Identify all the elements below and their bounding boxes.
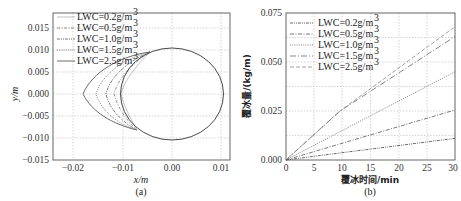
ytick-label: 0.075 bbox=[261, 8, 283, 18]
ytick-label: 0.000 bbox=[261, 155, 283, 165]
panel-b: 0.075 0.050 0.025 0.000 0 5 10 15 20 25 … bbox=[241, 8, 458, 198]
xtick-label: 15 bbox=[366, 163, 376, 173]
xtick-label: −0.02 bbox=[62, 163, 84, 173]
legend-item: LWC=0.2g/m 3 bbox=[57, 6, 138, 22]
legend-sup: 3 bbox=[133, 39, 138, 50]
legend-sup: 3 bbox=[133, 17, 138, 28]
xtick-label: 30 bbox=[448, 163, 458, 173]
xtick-label: 20 bbox=[394, 163, 404, 173]
legend-label: LWC=0.5g/m bbox=[318, 28, 373, 39]
panel-a-legend: LWC=0.2g/m 3 LWC=0.5g/m 3 LWC=1.0g/m 3 L… bbox=[57, 6, 138, 66]
legend-sup: 3 bbox=[133, 50, 138, 61]
panel-b-caption: (b) bbox=[364, 186, 376, 198]
legend-label: LWC=1.0g/m bbox=[77, 33, 132, 44]
panel-b-xticks: 0 5 10 15 20 25 30 bbox=[284, 163, 458, 173]
legend-sup: 3 bbox=[374, 34, 379, 45]
ytick-label: −0.010 bbox=[22, 133, 49, 143]
ytick-label: −0.015 bbox=[22, 155, 49, 165]
figure: 0.015 0.010 0.005 0.000 −0.005 −0.010 −0… bbox=[0, 0, 461, 201]
ytick-label: 0.025 bbox=[261, 106, 283, 116]
xtick-label: 5 bbox=[312, 163, 317, 173]
ytick-label: −0.005 bbox=[22, 111, 49, 121]
legend-sup: 3 bbox=[133, 6, 138, 17]
legend-label: LWC=2.5g/m bbox=[318, 61, 373, 72]
legend-label: LWC=0.2g/m bbox=[77, 11, 132, 22]
ytick-label: 0.015 bbox=[28, 23, 50, 33]
panel-a-ylabel: y/m bbox=[9, 87, 20, 102]
legend-sup: 3 bbox=[374, 56, 379, 67]
xtick-label: 25 bbox=[422, 163, 432, 173]
ytick-label: 0.005 bbox=[28, 67, 50, 77]
legend-item: LWC=0.2g/m 3 bbox=[290, 12, 379, 28]
panel-a-caption: (a) bbox=[135, 186, 146, 198]
legend-sup: 3 bbox=[133, 28, 138, 39]
xtick-label: 0.00 bbox=[164, 163, 181, 173]
ytick-label: 0.000 bbox=[28, 89, 50, 99]
xtick-label: 0.01 bbox=[213, 163, 230, 173]
panel-b-legend: LWC=0.2g/m 3 LWC=0.5g/m 3 LWC=1.0g/m 3 L… bbox=[290, 12, 379, 72]
legend-label: LWC=1.5g/m bbox=[77, 44, 132, 55]
panel-a: 0.015 0.010 0.005 0.000 −0.005 −0.010 −0… bbox=[9, 6, 230, 198]
legend-label: LWC=2.5g/m bbox=[77, 55, 132, 66]
ytick-label: 0.010 bbox=[28, 45, 50, 55]
panel-b-yticks: 0.075 0.050 0.025 0.000 bbox=[261, 8, 283, 165]
panel-a-xticks: −0.02 −0.01 0.00 0.01 bbox=[62, 163, 230, 173]
panel-a-xlabel: x/m bbox=[133, 174, 148, 185]
legend-label: LWC=1.5g/m bbox=[318, 50, 373, 61]
legend-label: LWC=0.5g/m bbox=[77, 22, 132, 33]
legend-label: LWC=1.0g/m bbox=[318, 39, 373, 50]
xtick-label: 10 bbox=[337, 163, 347, 173]
ytick-label: 0.050 bbox=[261, 57, 283, 67]
legend-sup: 3 bbox=[374, 12, 379, 23]
panel-a-yticks: 0.015 0.010 0.005 0.000 −0.005 −0.010 −0… bbox=[22, 23, 49, 165]
panel-b-xlabel: 覆冰时间/min bbox=[341, 174, 399, 185]
legend-sup: 3 bbox=[374, 23, 379, 34]
xtick-label: 0 bbox=[284, 163, 289, 173]
panel-b-ylabel: 覆冰量/(kg/m) bbox=[241, 54, 252, 118]
legend-sup: 3 bbox=[374, 45, 379, 56]
legend-label: LWC=0.2g/m bbox=[318, 17, 373, 28]
xtick-label: −0.01 bbox=[112, 163, 134, 173]
